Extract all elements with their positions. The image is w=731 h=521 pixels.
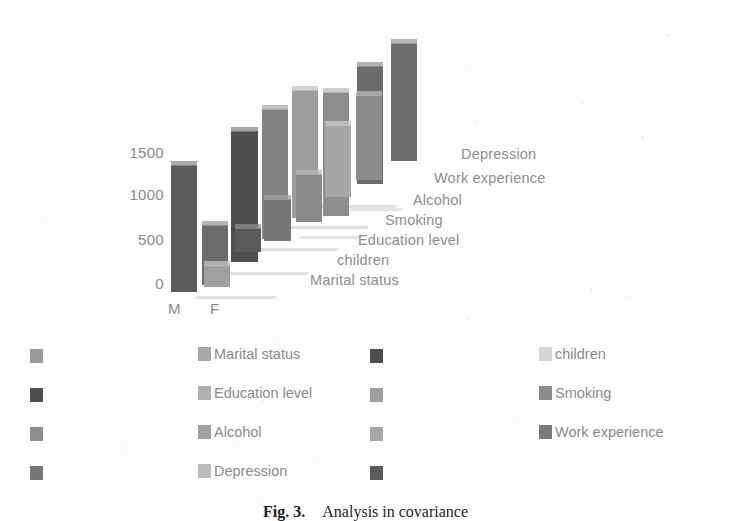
- legend-swatch-col1-row3: [30, 427, 43, 441]
- legend-item-children: children: [539, 346, 606, 362]
- legend-label-children: children: [555, 346, 606, 362]
- legend-swatch-col3-row3: [370, 427, 383, 441]
- bar-alcohol-f: [325, 125, 351, 197]
- depth-label-alcohol: Alcohol: [413, 192, 462, 208]
- bar-chart-3d: 1500 1000 500 0: [0, 0, 731, 330]
- legend-label-depression: Depression: [214, 463, 287, 479]
- legend-item-alcohol: Alcohol: [198, 424, 262, 440]
- legend-swatch-col1-row2: [30, 388, 43, 402]
- legend-swatch-col1-row4: [30, 466, 43, 480]
- legend-swatch-col1-row1: [30, 349, 43, 363]
- legend-swatch-education-level: [198, 386, 211, 400]
- figure-page: 1500 1000 500 0: [0, 0, 731, 521]
- figure-caption-label: Fig. 3.: [263, 503, 305, 520]
- floor-gridline: [299, 236, 361, 239]
- depth-label-children: children: [337, 252, 389, 268]
- legend-swatch-children: [539, 347, 552, 361]
- legend-swatch-work-experience: [539, 425, 552, 439]
- depth-label-education-level: Education level: [358, 232, 459, 248]
- legend-item-education-level: Education level: [198, 385, 312, 401]
- legend-label-marital-status: Marital status: [214, 346, 300, 362]
- legend-swatch-col3-row1: [370, 349, 383, 363]
- floor-gridline: [257, 248, 339, 251]
- depth-label-smoking: Smoking: [385, 212, 443, 228]
- depth-label-work-experience: Work experience: [434, 170, 546, 186]
- floor-gridline: [349, 208, 403, 211]
- chart-legend: Marital status children Education level …: [0, 336, 731, 486]
- depth-label-marital-status: Marital status: [310, 272, 399, 288]
- legend-swatch-alcohol: [198, 425, 211, 439]
- legend-item-depression: Depression: [198, 463, 287, 479]
- y-tick-1500: 1500: [129, 144, 164, 161]
- legend-label-work-experience: Work experience: [555, 424, 664, 440]
- bar-marital-status-m: [171, 165, 197, 292]
- legend-swatch-marital-status: [198, 347, 211, 361]
- depth-label-depression: Depression: [461, 146, 536, 162]
- legend-swatch-depression: [198, 464, 211, 478]
- legend-swatch-col3-row2: [370, 388, 383, 402]
- legend-label-alcohol: Alcohol: [214, 424, 262, 440]
- y-tick-1000: 1000: [129, 186, 164, 203]
- floor-gridline: [227, 272, 309, 275]
- legend-swatch-smoking: [539, 386, 552, 400]
- y-tick-0: 0: [155, 275, 164, 292]
- legend-swatch-col3-row4: [370, 466, 383, 480]
- bar-work-experience-f: [356, 95, 382, 180]
- floor-gridline: [287, 226, 369, 229]
- legend-item-work-experience: Work experience: [539, 424, 664, 440]
- bar-marital-status-f: [204, 265, 230, 287]
- legend-label-education-level: Education level: [214, 385, 312, 401]
- y-tick-500: 500: [138, 231, 164, 248]
- figure-caption-text: Analysis in covariance: [322, 503, 468, 520]
- x-category-m: M: [168, 300, 181, 317]
- figure-caption: Fig. 3. Analysis in covariance: [0, 503, 731, 521]
- bar-children-f: [235, 228, 261, 252]
- legend-item-smoking: Smoking: [539, 385, 611, 401]
- paper-speck: [447, 496, 449, 498]
- bar-education-level-f: [264, 199, 291, 241]
- x-category-f: F: [210, 300, 219, 317]
- legend-label-smoking: Smoking: [555, 385, 611, 401]
- bar-smoking-f: [296, 174, 322, 222]
- bar-depression-f: [391, 43, 417, 161]
- legend-item-marital-status: Marital status: [198, 346, 300, 362]
- floor-gridline: [195, 296, 277, 299]
